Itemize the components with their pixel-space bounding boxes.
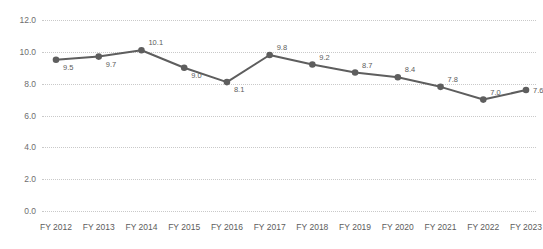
data-point-marker <box>53 56 60 63</box>
data-point-label: 9.7 <box>106 59 116 68</box>
line-chart: 0.02.04.06.08.010.012.0 9.59.710.19.08.1… <box>0 0 543 249</box>
data-point-label: 7.0 <box>490 87 500 96</box>
data-point-marker <box>523 87 530 94</box>
data-point-marker <box>138 47 145 54</box>
x-axis-tick-label: FY 2015 <box>168 222 200 232</box>
data-point-label: 8.7 <box>362 60 372 69</box>
data-point-marker <box>352 69 359 76</box>
y-axis-tick-label: 0.0 <box>4 206 36 216</box>
x-axis-tick-label: FY 2023 <box>510 222 542 232</box>
y-axis-tick-label: 8.0 <box>4 79 36 89</box>
y-axis-tick-label: 12.0 <box>4 15 36 25</box>
plot-area <box>42 20 536 211</box>
data-point-label: 8.4 <box>405 65 415 74</box>
data-point-label: 9.2 <box>319 52 329 61</box>
x-axis-tick-label: FY 2014 <box>125 222 157 232</box>
gridline <box>42 211 536 212</box>
data-point-marker <box>181 64 188 71</box>
data-point-marker <box>395 74 402 81</box>
data-point-marker <box>266 52 273 59</box>
x-axis-tick-label: FY 2017 <box>254 222 286 232</box>
data-point-label: 7.8 <box>448 74 458 83</box>
y-axis-tick-label: 4.0 <box>4 142 36 152</box>
data-point-label: 9.8 <box>277 43 287 52</box>
series-line <box>42 20 536 211</box>
x-axis-tick-label: FY 2018 <box>296 222 328 232</box>
y-axis-tick-label: 10.0 <box>4 47 36 57</box>
data-point-label: 9.0 <box>191 70 201 79</box>
x-axis-tick-label: FY 2016 <box>211 222 243 232</box>
data-point-marker <box>480 96 487 103</box>
data-point-label: 8.1 <box>234 85 244 94</box>
data-point-marker <box>437 84 444 91</box>
x-axis-tick-label: FY 2013 <box>83 222 115 232</box>
data-point-label: 7.6 <box>533 86 543 95</box>
x-axis-tick-label: FY 2019 <box>339 222 371 232</box>
x-axis-tick-label: FY 2022 <box>467 222 499 232</box>
x-axis-tick-label: FY 2012 <box>40 222 72 232</box>
data-point-marker <box>95 53 102 60</box>
data-point-label: 9.5 <box>63 62 73 71</box>
x-axis-tick-label: FY 2020 <box>382 222 414 232</box>
data-point-marker <box>224 79 231 86</box>
y-axis-tick-label: 2.0 <box>4 174 36 184</box>
data-point-marker <box>309 61 316 68</box>
y-axis-tick-label: 6.0 <box>4 111 36 121</box>
data-point-label: 10.1 <box>148 38 163 47</box>
x-axis-tick-label: FY 2021 <box>425 222 457 232</box>
